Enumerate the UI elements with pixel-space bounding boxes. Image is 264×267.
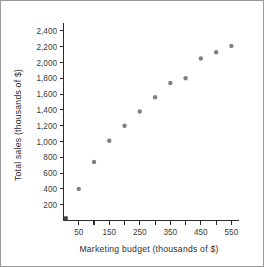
data-point (229, 44, 233, 48)
y-tick-label: 1,000 (37, 138, 58, 147)
data-point (153, 95, 157, 99)
data-point (138, 109, 142, 113)
data-point (214, 50, 218, 54)
x-tick-label: 550 (225, 228, 239, 237)
chart-figure: 2004006008001,0001,2001,4001,6001,8002,0… (0, 0, 264, 267)
data-point (168, 81, 172, 85)
x-tick-label: 50 (74, 228, 84, 237)
y-tick-label: 1,400 (37, 106, 58, 115)
axes (64, 23, 240, 221)
x-tick-label: 150 (102, 228, 116, 237)
x-axis-ticks: 50150250350450550 (74, 221, 238, 237)
y-tick-label: 2,000 (37, 59, 58, 68)
y-axis-title: Total sales (thousands of $) (13, 69, 23, 181)
y-tick-label: 600 (43, 169, 57, 178)
x-tick-label: 350 (163, 228, 177, 237)
y-tick-label: 2,400 (37, 27, 58, 36)
data-point (183, 76, 187, 80)
data-point (92, 160, 96, 164)
x-axis-title: Marketing budget (thousands of $) (79, 244, 218, 254)
y-tick-label: 200 (43, 201, 57, 210)
y-tick-label: 800 (43, 153, 57, 162)
y-axis-ticks: 2004006008001,0001,2001,4001,6001,8002,0… (37, 27, 64, 210)
origin-marker (64, 216, 68, 220)
x-tick-label: 250 (133, 228, 147, 237)
data-point (77, 187, 81, 191)
y-tick-label: 1,600 (37, 90, 58, 99)
y-tick-label: 1,800 (37, 74, 58, 83)
y-tick-label: 400 (43, 185, 57, 194)
y-tick-label: 2,200 (37, 43, 58, 52)
scatter-plot: 2004006008001,0001,2001,4001,6001,8002,0… (1, 1, 264, 267)
data-points (77, 44, 234, 191)
x-tick-label: 450 (194, 228, 208, 237)
y-tick-label: 1,200 (37, 122, 58, 131)
axis-spines (64, 23, 240, 221)
data-point (199, 56, 203, 60)
data-point (107, 139, 111, 143)
data-point (122, 124, 126, 128)
